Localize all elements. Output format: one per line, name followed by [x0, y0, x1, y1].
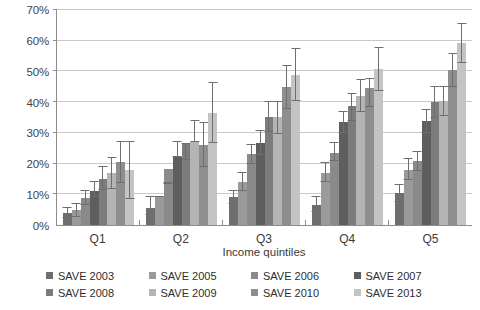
- bar[interactable]: [164, 169, 173, 225]
- bar[interactable]: [107, 173, 116, 225]
- bar-slot[interactable]: [190, 10, 199, 225]
- legend-item-save-2006[interactable]: SAVE 2006: [251, 268, 354, 283]
- bar[interactable]: [448, 70, 457, 225]
- error-bar-cap-top: [229, 190, 238, 191]
- bar-slot[interactable]: [155, 10, 164, 225]
- bar[interactable]: [256, 143, 265, 225]
- bar[interactable]: [282, 87, 291, 225]
- bar-slot[interactable]: [229, 10, 238, 225]
- bar[interactable]: [125, 170, 134, 225]
- bar[interactable]: [413, 161, 422, 225]
- bar[interactable]: [374, 69, 383, 225]
- bar-slot[interactable]: [273, 10, 282, 225]
- legend-label: SAVE 2008: [58, 287, 114, 299]
- bar-slot[interactable]: [321, 10, 330, 225]
- bar[interactable]: [81, 198, 90, 225]
- legend-item-save-2007[interactable]: SAVE 2007: [354, 268, 457, 283]
- bar[interactable]: [321, 173, 330, 225]
- bar[interactable]: [339, 122, 348, 225]
- bar-slot[interactable]: [457, 10, 466, 225]
- bar-slot[interactable]: [247, 10, 256, 225]
- legend-item-save-2005[interactable]: SAVE 2005: [149, 268, 252, 283]
- error-bar-cap-top: [365, 78, 374, 79]
- legend-item-save-2009[interactable]: SAVE 2009: [149, 285, 252, 300]
- bar-slot[interactable]: [107, 10, 116, 225]
- legend-item-save-2003[interactable]: SAVE 2003: [46, 268, 149, 283]
- bar-slot[interactable]: [125, 10, 134, 225]
- bar-slot[interactable]: [356, 10, 365, 225]
- bar-slot[interactable]: [282, 10, 291, 225]
- bar-slot[interactable]: [395, 10, 404, 225]
- bar[interactable]: [273, 117, 282, 225]
- bar-slot[interactable]: [81, 10, 90, 225]
- bar[interactable]: [404, 170, 413, 225]
- bar-slot[interactable]: [116, 10, 125, 225]
- bar-slot[interactable]: [146, 10, 155, 225]
- bar-slot[interactable]: [312, 10, 321, 225]
- bar-slot[interactable]: [265, 10, 274, 225]
- bar[interactable]: [190, 142, 199, 225]
- error-bar-cap-top: [238, 172, 247, 173]
- bar-slot[interactable]: [291, 10, 300, 225]
- bar[interactable]: [229, 197, 238, 225]
- legend-item-save-2010[interactable]: SAVE 2010: [251, 285, 354, 300]
- bar[interactable]: [356, 96, 365, 225]
- bar[interactable]: [291, 75, 300, 226]
- bar-slot[interactable]: [404, 10, 413, 225]
- bar[interactable]: [99, 179, 108, 225]
- error-bar-cap-top: [98, 166, 107, 167]
- error-bar: [190, 120, 199, 142]
- bar-slot[interactable]: [208, 10, 217, 225]
- bar-slot[interactable]: [256, 10, 265, 225]
- bar-slot[interactable]: [439, 10, 448, 225]
- bar-slot[interactable]: [431, 10, 440, 225]
- error-bar-cap-top: [430, 86, 439, 87]
- y-tick-label: 40%: [27, 97, 49, 109]
- bar[interactable]: [155, 197, 164, 225]
- bar-slot[interactable]: [330, 10, 339, 225]
- bar[interactable]: [365, 88, 374, 225]
- legend-item-save-2013[interactable]: SAVE 2013: [354, 285, 457, 300]
- bar[interactable]: [116, 162, 125, 225]
- bar-slot[interactable]: [339, 10, 348, 225]
- bar-slot[interactable]: [90, 10, 99, 225]
- x-axis-title: Income quintiles: [56, 246, 472, 258]
- bar[interactable]: [422, 121, 431, 225]
- legend-item-save-2008[interactable]: SAVE 2008: [46, 285, 149, 300]
- bar[interactable]: [431, 102, 440, 225]
- bar[interactable]: [439, 101, 448, 225]
- bar-slot[interactable]: [63, 10, 72, 225]
- bar[interactable]: [238, 182, 247, 225]
- bar-slot[interactable]: [413, 10, 422, 225]
- bar-slot[interactable]: [448, 10, 457, 225]
- y-tick-label: 30%: [27, 127, 49, 139]
- bar[interactable]: [330, 153, 339, 225]
- bar-slot[interactable]: [365, 10, 374, 225]
- bar[interactable]: [208, 113, 217, 225]
- bar[interactable]: [72, 210, 81, 225]
- bar-slot[interactable]: [182, 10, 191, 225]
- legend-swatch-icon: [149, 289, 156, 296]
- bar-slot[interactable]: [422, 10, 431, 225]
- bar[interactable]: [173, 157, 182, 225]
- bar-slot[interactable]: [199, 10, 208, 225]
- bar-slot[interactable]: [348, 10, 357, 225]
- bar[interactable]: [265, 117, 274, 225]
- bar-slot[interactable]: [238, 10, 247, 225]
- bar-slot[interactable]: [72, 10, 81, 225]
- bar-slot[interactable]: [374, 10, 383, 225]
- bar[interactable]: [348, 106, 357, 225]
- bar[interactable]: [90, 191, 99, 225]
- bar[interactable]: [199, 145, 208, 225]
- bar[interactable]: [247, 154, 256, 225]
- bar-slot[interactable]: [173, 10, 182, 225]
- bar[interactable]: [182, 143, 191, 225]
- bar[interactable]: [312, 205, 321, 225]
- bar[interactable]: [146, 208, 155, 225]
- bar-group-q4: [306, 10, 389, 225]
- bar-slot[interactable]: [164, 10, 173, 225]
- bar[interactable]: [395, 193, 404, 225]
- bar[interactable]: [457, 43, 466, 225]
- bar-slot[interactable]: [99, 10, 108, 225]
- bar[interactable]: [63, 213, 72, 225]
